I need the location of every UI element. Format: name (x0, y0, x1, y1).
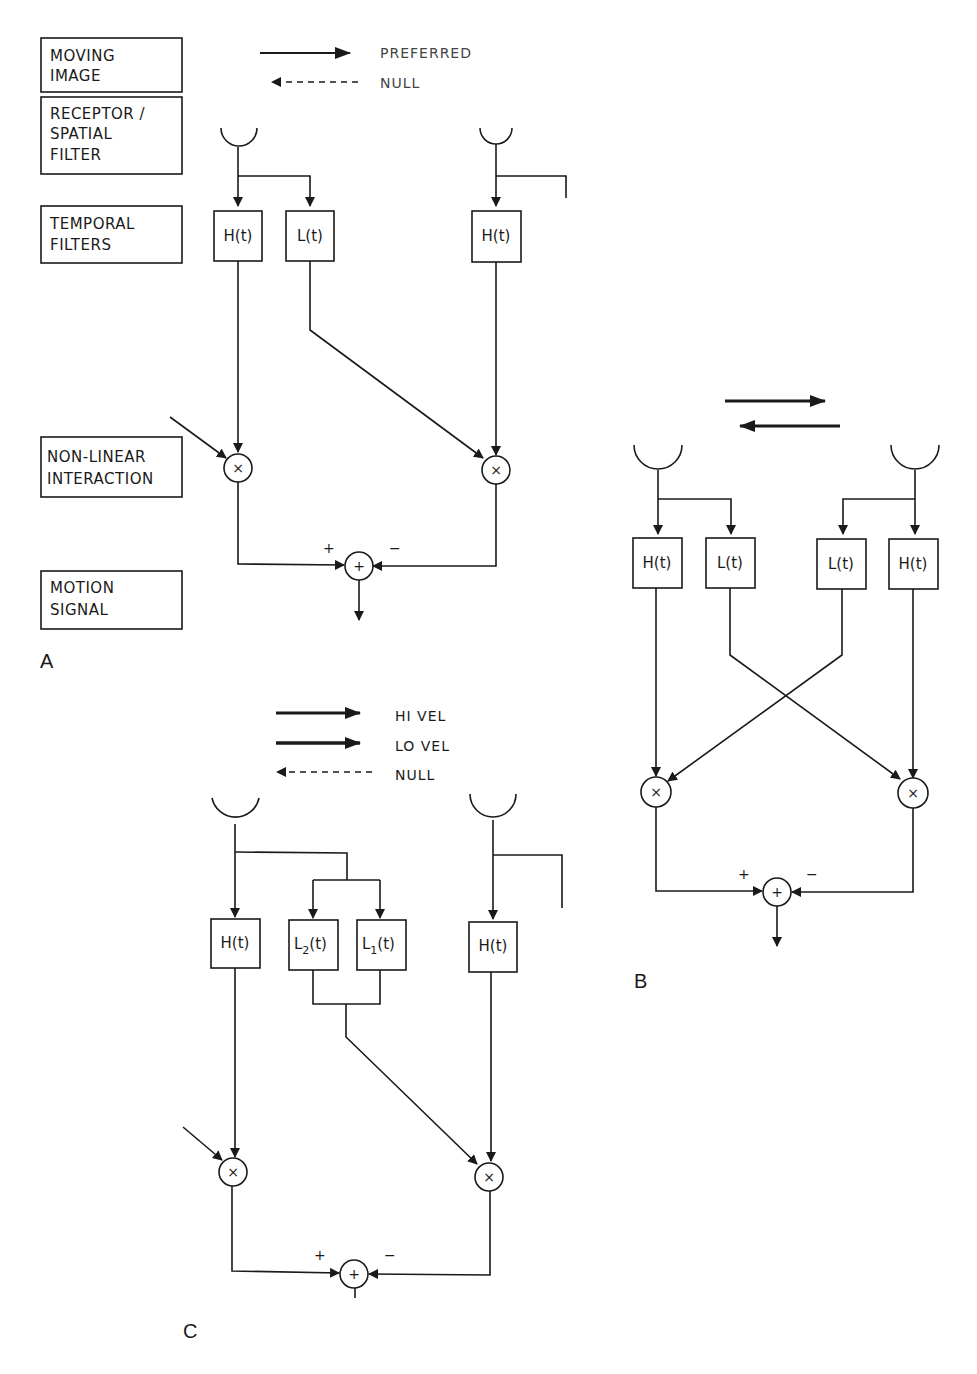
filter-l-left: L(t) (286, 211, 334, 261)
summation-a: + (345, 552, 373, 580)
receptor-right (480, 128, 512, 144)
svg-text:INTERACTION: INTERACTION (47, 470, 154, 488)
svg-text:FILTERS: FILTERS (50, 236, 111, 254)
multiplier-left: × (224, 454, 252, 482)
receptor-b-right (891, 445, 939, 469)
svg-text:×: × (490, 462, 502, 478)
svg-text:−: − (384, 1247, 396, 1263)
filter-h-right: H(t) (472, 211, 521, 262)
legend-hi-vel: HI VEL (276, 708, 446, 724)
svg-text:×: × (907, 785, 919, 801)
svg-text:PREFERRED: PREFERRED (380, 45, 472, 61)
panel-label-b: B (634, 970, 647, 992)
row-label-moving-image: MOVING IMAGE (41, 38, 182, 92)
row-label-non-linear-interaction: NON-LINEAR INTERACTION (41, 437, 182, 497)
svg-text:H(t): H(t) (899, 555, 928, 573)
multiplier-c-left: × (219, 1158, 247, 1186)
summation-b: + (763, 878, 791, 906)
svg-text:×: × (232, 460, 244, 476)
svg-text:TEMPORAL: TEMPORAL (49, 215, 135, 233)
svg-text:+: + (738, 866, 750, 882)
multiplier-c-right: × (475, 1163, 503, 1191)
filter-h-left: H(t) (214, 211, 262, 261)
multiplier-b-right: × (898, 778, 928, 808)
motion-detector-diagram: MOVING IMAGE RECEPTOR / SPATIAL FILTER T… (0, 0, 977, 1374)
svg-text:H(t): H(t) (221, 934, 250, 952)
svg-text:−: − (389, 540, 401, 556)
svg-text:L(t): L(t) (297, 227, 323, 245)
svg-text:NULL: NULL (395, 767, 435, 783)
svg-text:RECEPTOR /: RECEPTOR / (50, 105, 146, 123)
receptor-c-left (212, 798, 259, 817)
svg-text:×: × (650, 784, 662, 800)
svg-text:MOTION: MOTION (50, 579, 114, 597)
filter-b-h1: H(t) (633, 538, 682, 588)
svg-text:+: + (314, 1247, 326, 1263)
svg-text:+: + (323, 540, 335, 556)
summation-c: + (340, 1260, 368, 1288)
legend-null: NULL (272, 75, 420, 91)
panel-label-a: A (40, 650, 54, 672)
panel-label-c: C (183, 1320, 197, 1342)
svg-text:LO VEL: LO VEL (395, 738, 450, 754)
filter-c-l2: L2(t) (289, 920, 338, 970)
multiplier-right: × (482, 456, 510, 484)
legend-lo-vel: LO VEL (276, 738, 450, 754)
svg-text:L(t): L(t) (828, 555, 854, 573)
svg-text:H(t): H(t) (479, 937, 508, 955)
filter-c-l1: L1(t) (357, 920, 406, 970)
legend-preferred: PREFERRED (260, 45, 472, 61)
receptor-c-right (470, 794, 516, 817)
svg-text:×: × (227, 1164, 239, 1180)
panel-c: HI VEL LO VEL NULL H(t) L2(t) L1(t) (183, 708, 562, 1342)
svg-text:NULL: NULL (380, 75, 420, 91)
legend-null-c: NULL (277, 767, 435, 783)
filter-c-h-right: H(t) (469, 922, 517, 972)
svg-text:+: + (353, 558, 365, 574)
row-label-receptor: RECEPTOR / SPATIAL FILTER (41, 97, 182, 174)
panel-b: H(t) L(t) L(t) H(t) × × + − (633, 401, 939, 992)
filter-c-h-left: H(t) (211, 919, 260, 968)
filter-b-h2: H(t) (889, 539, 938, 589)
svg-text:H(t): H(t) (224, 227, 253, 245)
multiplier-b-left: × (641, 777, 671, 807)
svg-text:IMAGE: IMAGE (50, 67, 101, 85)
svg-text:+: + (348, 1266, 360, 1282)
svg-text:NON-LINEAR: NON-LINEAR (47, 448, 146, 466)
row-label-temporal-filters: TEMPORAL FILTERS (41, 206, 182, 263)
svg-text:×: × (483, 1169, 495, 1185)
receptor-left (221, 128, 257, 146)
svg-text:SIGNAL: SIGNAL (50, 601, 109, 619)
svg-text:+: + (771, 884, 783, 900)
svg-text:MOVING: MOVING (50, 47, 115, 65)
svg-text:SPATIAL: SPATIAL (50, 125, 113, 143)
row-label-motion-signal: MOTION SIGNAL (41, 571, 182, 629)
svg-text:H(t): H(t) (643, 554, 672, 572)
svg-text:FILTER: FILTER (50, 146, 101, 164)
svg-text:L(t): L(t) (717, 554, 743, 572)
svg-text:HI VEL: HI VEL (395, 708, 446, 724)
filter-b-l1: L(t) (706, 538, 755, 588)
svg-text:H(t): H(t) (482, 227, 511, 245)
receptor-b-left (634, 445, 682, 469)
svg-text:−: − (806, 866, 818, 882)
filter-b-l2: L(t) (817, 539, 866, 589)
